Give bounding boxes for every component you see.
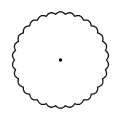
diagram-canvas: [0, 0, 122, 122]
center-dot: [59, 58, 62, 61]
